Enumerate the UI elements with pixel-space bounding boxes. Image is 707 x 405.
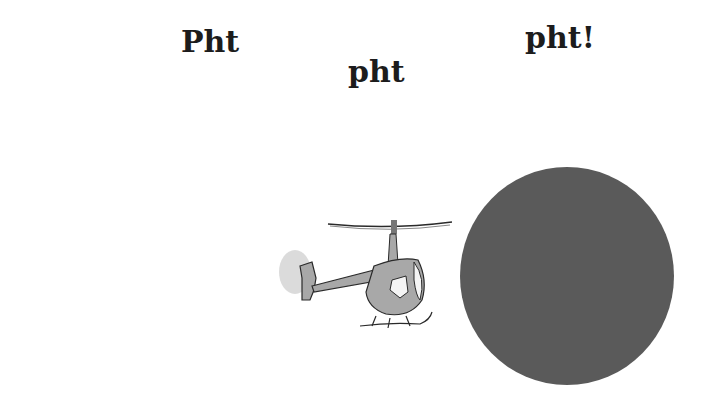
sound-word-3: pht! [525, 20, 595, 55]
sound-word-1: Pht [181, 24, 239, 59]
dark-circle [460, 167, 674, 385]
helicopter-icon [270, 200, 460, 340]
sound-word-2: pht [348, 54, 405, 89]
